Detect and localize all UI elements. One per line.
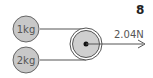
force-label: 2.04N xyxy=(114,29,144,40)
pulley-diagram: 8 1kg 2kg 2.04N xyxy=(0,0,153,78)
mass-2kg-label: 2kg xyxy=(17,55,36,66)
problem-number: 8 xyxy=(136,3,144,17)
mass-1kg-label: 1kg xyxy=(17,24,36,35)
